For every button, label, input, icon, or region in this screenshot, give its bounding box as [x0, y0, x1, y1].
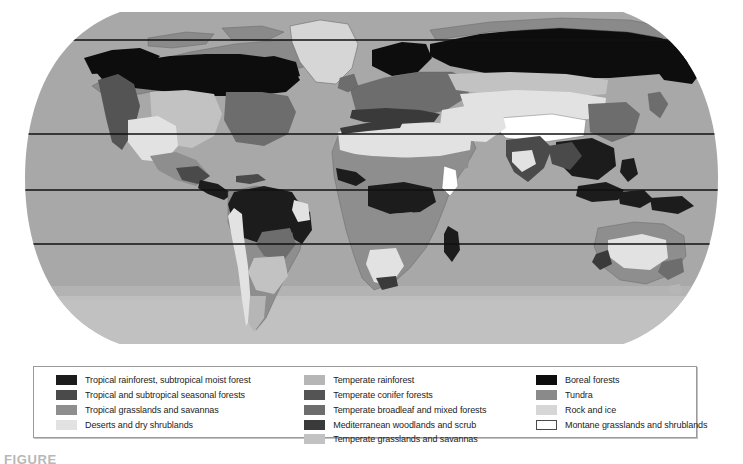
legend-item: Temperate grasslands and savannas	[304, 432, 528, 446]
legend-item: Tropical and subtropical seasonal forest…	[56, 388, 298, 402]
legend-label: Montane grasslands and shrublands	[565, 420, 707, 430]
legend-swatch	[536, 405, 557, 415]
legend-item: Mediterranean woodlands and scrub	[304, 417, 528, 431]
legend-swatch	[56, 405, 77, 415]
legend-label: Tundra	[565, 390, 593, 400]
legend-item: Deserts and dry shrublands	[56, 417, 298, 431]
southern-ocean-band	[0, 286, 743, 300]
legend-label: Tropical rainforest, subtropical moist f…	[85, 375, 251, 385]
legend-item: Montane grasslands and shrublands	[536, 417, 696, 431]
legend-item: Boreal forests	[536, 373, 696, 387]
legend-label: Temperate conifer forests	[333, 390, 433, 400]
legend-label: Tropical grasslands and savannas	[85, 405, 219, 415]
legend-label: Rock and ice	[565, 405, 616, 415]
legend-label: Temperate broadleaf and mixed forests	[333, 405, 486, 415]
legend-swatch	[304, 375, 325, 385]
legend-label: Boreal forests	[565, 375, 619, 385]
map-svg	[0, 0, 743, 356]
legend-item: Tundra	[536, 388, 696, 402]
legend-item: Temperate conifer forests	[304, 388, 528, 402]
legend-swatch	[56, 420, 77, 430]
legend-item: Temperate rainforest	[304, 373, 528, 387]
legend-swatch	[56, 375, 77, 385]
legend-swatch	[304, 434, 325, 444]
map-body	[0, 0, 743, 356]
legend-label: Deserts and dry shrublands	[85, 420, 193, 430]
legend-swatch	[536, 420, 557, 430]
world-biome-map	[0, 0, 743, 356]
legend-item: Tropical rainforest, subtropical moist f…	[56, 373, 298, 387]
legend-swatch	[56, 390, 77, 400]
legend-item: Temperate broadleaf and mixed forests	[304, 403, 528, 417]
legend-swatch	[304, 420, 325, 430]
figure-caption-label: FIGURE	[4, 452, 57, 464]
legend-swatch	[304, 390, 325, 400]
legend-label: Tropical and subtropical seasonal forest…	[85, 390, 245, 400]
figure-container: Tropical rainforest, subtropical moist f…	[0, 0, 743, 464]
legend-label: Mediterranean woodlands and scrub	[333, 420, 476, 430]
southern-ocean	[0, 296, 743, 356]
legend-label: Temperate grasslands and savannas	[333, 434, 477, 444]
map-legend: Tropical rainforest, subtropical moist f…	[33, 366, 697, 438]
legend-item: Rock and ice	[536, 403, 696, 417]
legend-item: Tropical grasslands and savannas	[56, 403, 298, 417]
legend-swatch	[304, 405, 325, 415]
legend-column-3: Boreal forests Tundra Rock and ice Monta…	[528, 373, 696, 437]
region-new-zealand	[700, 268, 716, 292]
legend-column-1: Tropical rainforest, subtropical moist f…	[34, 373, 298, 437]
legend-column-2: Temperate rainforest Temperate conifer f…	[298, 373, 528, 437]
legend-swatch	[536, 375, 557, 385]
legend-label: Temperate rainforest	[333, 375, 414, 385]
legend-swatch	[536, 390, 557, 400]
